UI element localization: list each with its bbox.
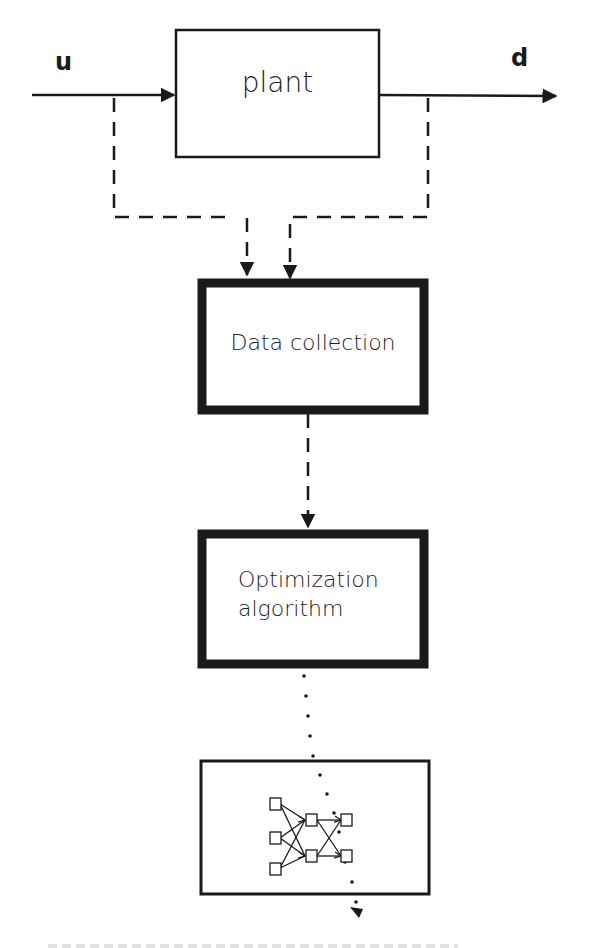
optimization-label-line1: Optimization: [238, 567, 379, 592]
output-arrow: [379, 95, 556, 96]
plant-label: plant: [176, 66, 379, 99]
neural-network-icon: [270, 798, 352, 875]
neural-network-box: [201, 761, 429, 894]
caption-clipped: [0, 936, 593, 948]
block-diagram: [0, 0, 593, 948]
output-tap-dashed: [290, 98, 428, 278]
output-signal-label: d: [511, 44, 528, 72]
optimization-label-line2: algorithm: [238, 596, 343, 621]
dotted-arrow: [302, 674, 363, 918]
data-collection-label: Data collection: [206, 330, 420, 355]
input-signal-label: u: [55, 48, 72, 76]
caption-partial-strokes: [48, 944, 458, 948]
